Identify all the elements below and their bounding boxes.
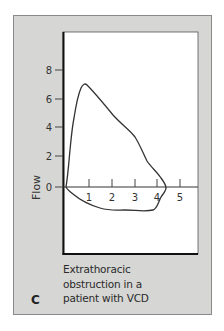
caption-line: patient with VCD xyxy=(63,291,149,306)
y-tick-label: 4 xyxy=(46,122,52,133)
caption-line: Extrathoracic xyxy=(63,262,149,277)
x-tick-label: 3 xyxy=(132,192,138,203)
plot-area xyxy=(63,32,198,254)
x-tick-label: 1 xyxy=(86,192,92,203)
y-tick-label: 0 xyxy=(46,182,52,193)
y-tick-label: 2 xyxy=(46,151,52,162)
y-ticks xyxy=(55,70,63,187)
y-axis-label: Flow xyxy=(30,175,43,200)
y-tick-label: 6 xyxy=(46,94,52,105)
x-tick-label: 2 xyxy=(109,192,115,203)
panel-label: C xyxy=(31,293,40,307)
y-tick-labels: 8 6 4 2 0 xyxy=(46,65,52,193)
caption-line: obstruction in a xyxy=(63,277,149,292)
y-tick-label: 8 xyxy=(46,65,52,76)
x-tick-label: 5 xyxy=(177,192,183,203)
figure-caption: Extrathoracic obstruction in a patient w… xyxy=(63,262,149,306)
